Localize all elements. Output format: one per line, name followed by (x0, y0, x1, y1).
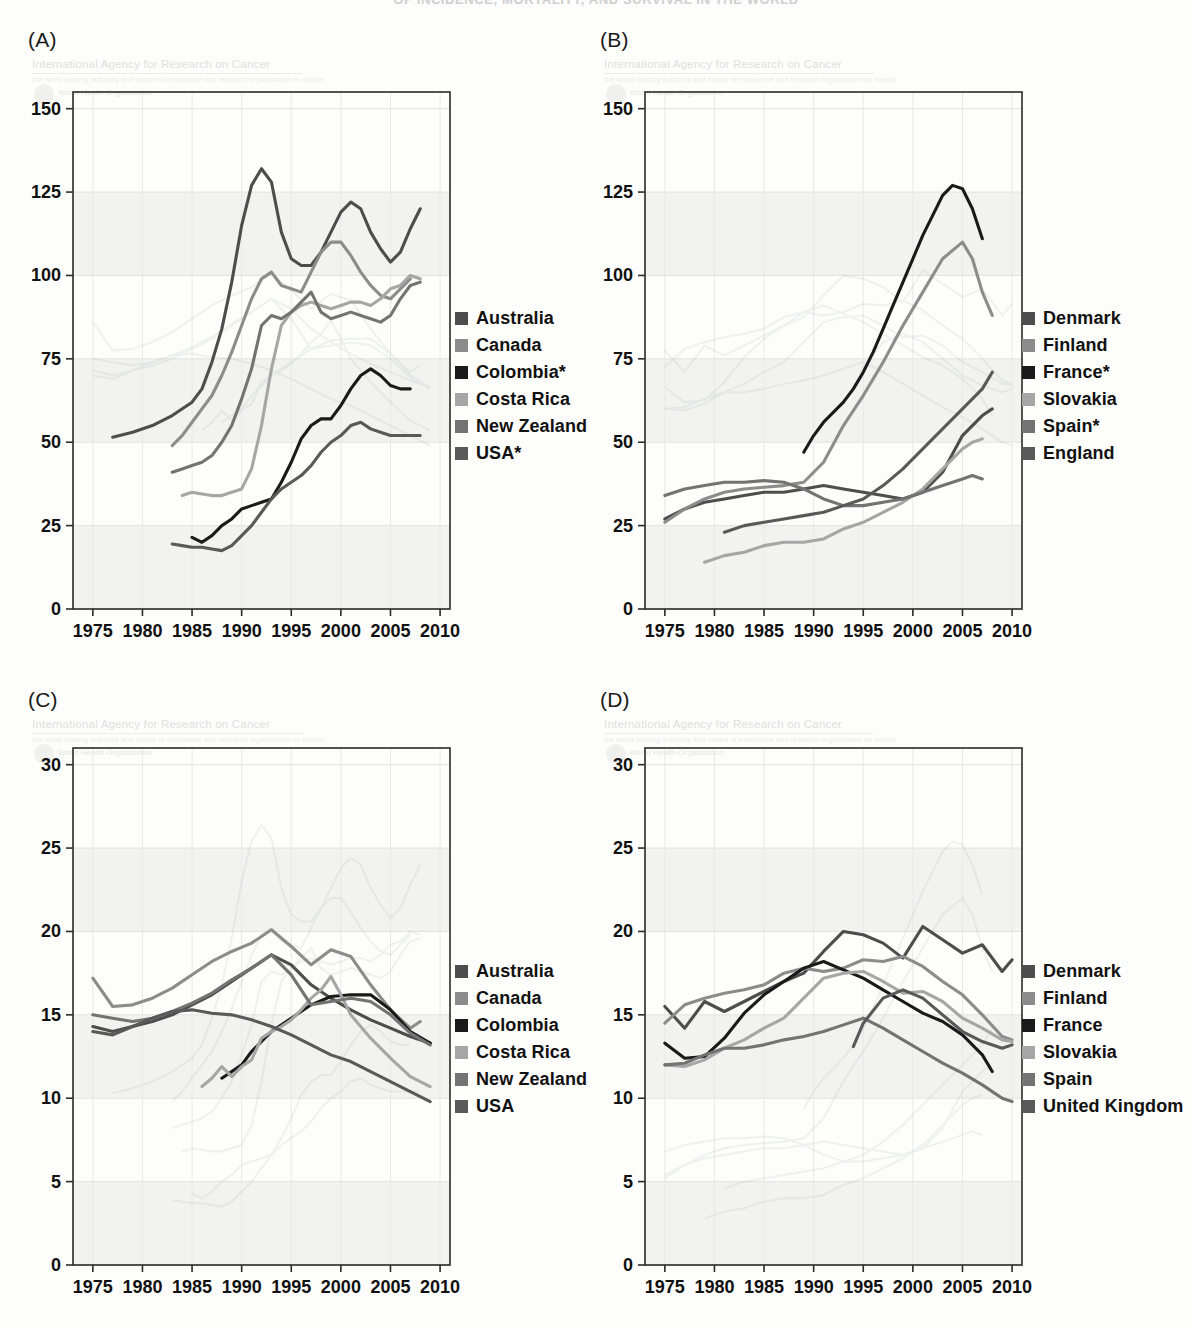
legend-swatch-icon (455, 420, 468, 433)
y-tick-label: 25 (613, 838, 633, 858)
y-tick-label: 10 (41, 1088, 61, 1108)
legend-swatch-icon (1022, 1073, 1035, 1086)
legend-item[interactable]: Finland (1022, 985, 1183, 1012)
watermark-divider (604, 73, 874, 74)
x-tick-label: 2005 (942, 1277, 982, 1297)
legend-item[interactable]: England (1022, 440, 1121, 467)
x-tick-label: 1975 (645, 621, 685, 641)
x-tick-label: 1980 (122, 1277, 162, 1297)
chart-plot-c: 0510152025301975198019851990199520002005… (13, 736, 462, 1311)
x-tick-label: 2010 (992, 1277, 1032, 1297)
legend-label: Canada (476, 988, 542, 1009)
y-tick-label: 100 (603, 265, 633, 285)
chart-plot-d: 0510152025301975198019851990199520002005… (585, 736, 1034, 1311)
legend-swatch-icon (1022, 420, 1035, 433)
y-tick-label: 150 (603, 99, 633, 119)
legend-label: Costa Rica (476, 389, 570, 410)
legend-item[interactable]: Canada (455, 332, 587, 359)
x-tick-label: 1975 (645, 1277, 685, 1297)
watermark-divider (604, 733, 874, 734)
y-tick-label: 25 (41, 516, 61, 536)
legend-label: Finland (1043, 335, 1108, 356)
legend-swatch-icon (455, 965, 468, 978)
y-tick-label: 5 (623, 1172, 633, 1192)
x-tick-label: 1980 (694, 1277, 734, 1297)
legend-item[interactable]: Australia (455, 958, 587, 985)
legend-item[interactable]: New Zealand (455, 413, 587, 440)
legend-item[interactable]: Colombia* (455, 359, 587, 386)
legend-c: AustraliaCanadaColombiaCosta RicaNew Zea… (455, 958, 587, 1120)
legend-swatch-icon (1022, 447, 1035, 460)
legend-item[interactable]: USA (455, 1093, 587, 1120)
legend-swatch-icon (455, 393, 468, 406)
panel-label-a: (A) (28, 28, 57, 52)
x-tick-label: 2005 (942, 621, 982, 641)
legend-a: AustraliaCanadaColombia*Costa RicaNew Ze… (455, 305, 587, 467)
legend-item[interactable]: France (1022, 1012, 1183, 1039)
panel-label-d: (D) (600, 688, 630, 712)
x-tick-label: 1980 (694, 621, 734, 641)
y-tick-label: 20 (613, 921, 633, 941)
legend-swatch-icon (455, 1019, 468, 1032)
y-tick-label: 5 (51, 1172, 61, 1192)
legend-item[interactable]: Denmark (1022, 305, 1121, 332)
legend-label: New Zealand (476, 416, 587, 437)
legend-item[interactable]: United Kingdom (1022, 1093, 1183, 1120)
legend-item[interactable]: New Zealand (455, 1066, 587, 1093)
legend-swatch-icon (1022, 1046, 1035, 1059)
legend-item[interactable]: Canada (455, 985, 587, 1012)
x-tick-label: 1975 (73, 1277, 113, 1297)
legend-item[interactable]: Costa Rica (455, 1039, 587, 1066)
x-tick-label: 1990 (794, 1277, 834, 1297)
x-tick-label: 1995 (843, 1277, 883, 1297)
x-tick-label: 2010 (420, 621, 460, 641)
legend-item[interactable]: Spain (1022, 1066, 1183, 1093)
watermark-text: International Agency for Research on Can… (32, 58, 270, 70)
legend-label: Canada (476, 335, 542, 356)
x-tick-label: 1985 (744, 1277, 784, 1297)
y-tick-label: 150 (31, 99, 61, 119)
legend-swatch-icon (1022, 965, 1035, 978)
x-tick-label: 1975 (73, 621, 113, 641)
x-tick-label: 1985 (744, 621, 784, 641)
legend-label: Denmark (1043, 308, 1121, 329)
series-line-denmark (665, 926, 1012, 1028)
watermark-text: International Agency for Research on Can… (604, 58, 842, 70)
legend-label: USA* (476, 443, 521, 464)
legend-item[interactable]: Denmark (1022, 958, 1183, 985)
legend-swatch-icon (1022, 1019, 1035, 1032)
x-tick-label: 2000 (893, 1277, 933, 1297)
x-tick-label: 1995 (843, 621, 883, 641)
legend-item[interactable]: USA* (455, 440, 587, 467)
legend-swatch-icon (1022, 393, 1035, 406)
y-tick-label: 75 (613, 349, 633, 369)
watermark-divider (32, 733, 302, 734)
legend-swatch-icon (455, 339, 468, 352)
legend-label: Slovakia (1043, 1042, 1117, 1063)
legend-label: Slovakia (1043, 389, 1117, 410)
x-tick-label: 2010 (420, 1277, 460, 1297)
legend-item[interactable]: Costa Rica (455, 386, 587, 413)
legend-label: Spain (1043, 1069, 1093, 1090)
x-tick-label: 2005 (370, 1277, 410, 1297)
chart-plot-a: 0255075100125150197519801985199019952000… (13, 80, 462, 655)
legend-b: DenmarkFinlandFrance*SlovakiaSpain*Engla… (1022, 305, 1121, 467)
y-tick-label: 20 (41, 921, 61, 941)
legend-item[interactable]: Spain* (1022, 413, 1121, 440)
legend-label: Colombia (476, 1015, 559, 1036)
running-header: OF INCIDENCE, MORTALITY, AND SURVIVAL IN… (0, 0, 1192, 7)
legend-label: Australia (476, 961, 554, 982)
legend-swatch-icon (1022, 312, 1035, 325)
y-tick-label: 25 (41, 838, 61, 858)
legend-label: USA (476, 1096, 514, 1117)
legend-swatch-icon (455, 1073, 468, 1086)
panel-label-c: (C) (28, 688, 58, 712)
legend-item[interactable]: France* (1022, 359, 1121, 386)
legend-item[interactable]: Slovakia (1022, 1039, 1183, 1066)
legend-label: United Kingdom (1043, 1096, 1183, 1117)
legend-item[interactable]: Colombia (455, 1012, 587, 1039)
legend-item[interactable]: Finland (1022, 332, 1121, 359)
legend-item[interactable]: Australia (455, 305, 587, 332)
x-tick-label: 1990 (794, 621, 834, 641)
legend-item[interactable]: Slovakia (1022, 386, 1121, 413)
